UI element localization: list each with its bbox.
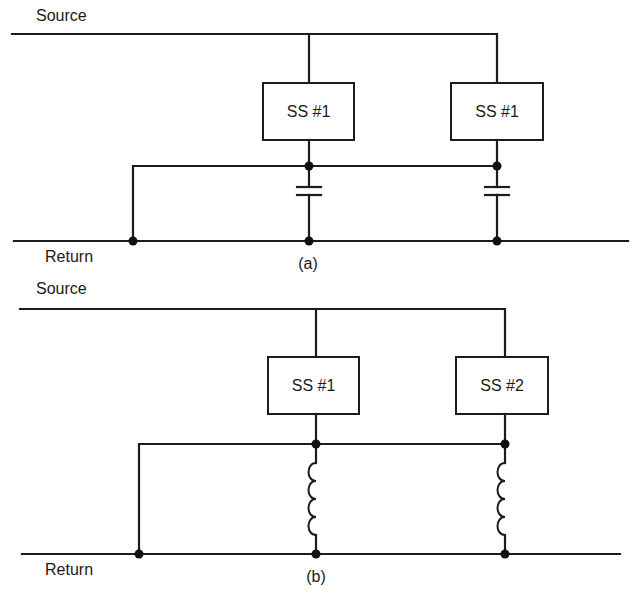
diagram-caption: (a) [243,256,373,272]
junction-dot [312,550,321,559]
source-label: Source [36,281,87,297]
diagram-b [20,309,620,559]
junction-dot [305,237,314,246]
inductor-icon [309,444,317,554]
subsystem-label: SS #1 [451,83,543,140]
junction-dot [501,550,510,559]
ground-bus-a [133,166,497,241]
junction-dot [493,162,502,171]
subsystem-label: SS #1 [263,83,354,140]
junction-dot [312,440,321,449]
subsystem-label: SS #1 [268,357,359,414]
capacitor-icon [485,166,509,241]
inductor-icon [498,444,506,554]
return-label: Return [45,249,93,265]
diagram-caption: (b) [251,569,381,585]
junction-dot [305,162,314,171]
junction-dot [129,237,138,246]
capacitor-icon [297,166,321,241]
source-line-b [20,309,505,357]
source-line-a [12,34,497,83]
return-label: Return [45,562,93,578]
source-label: Source [36,8,87,24]
junction-dot [501,440,510,449]
junction-dot [135,550,144,559]
ground-bus-b [139,444,505,554]
subsystem-label: SS #2 [456,357,548,414]
junction-dot [493,237,502,246]
